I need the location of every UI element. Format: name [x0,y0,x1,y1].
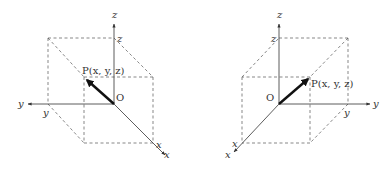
left-point-label: P(x, y, z) [82,65,125,76]
left-z-projection-label: z [116,33,123,44]
left-y-projection-label: y [42,107,49,118]
right-x-axis [234,104,279,152]
left-x-projection-label: x [156,139,162,150]
right-position-vector [279,79,308,104]
left-x-axis-label: x [164,149,170,160]
coordinate-diagrams: z y x z y x O P(x, y, z) [0,0,392,171]
left-position-vector [87,80,114,104]
left-y-axis-label: y [17,98,24,109]
left-diagram: z y x z y x O P(x, y, z) [17,9,170,160]
right-point-label: P(x, y, z) [311,78,354,89]
right-x-axis-label: x [225,149,231,160]
right-x-projection-label: x [232,138,238,149]
left-origin-label: O [116,92,124,103]
right-z-axis-label: z [276,9,283,20]
right-diagram: z y x z y x O P(x, y, z) [225,9,379,160]
right-y-projection-label: y [343,107,350,118]
left-z-axis-label: z [111,9,118,20]
right-z-projection-label: z [270,33,277,44]
right-y-axis-label: y [372,98,379,109]
right-origin-label: O [266,92,274,103]
